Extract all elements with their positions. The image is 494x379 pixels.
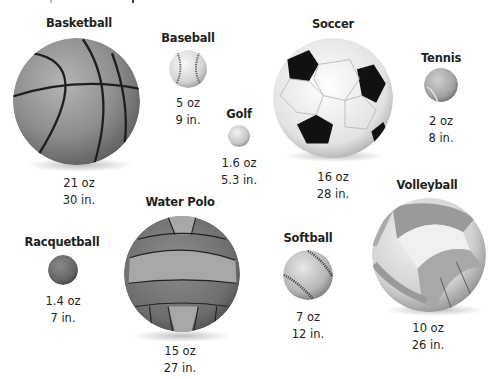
ball-weight: 5 oz xyxy=(175,95,200,112)
tennis-ball-image xyxy=(424,68,458,102)
golf-ball-image xyxy=(228,125,250,147)
ball-circumference: 12 in. xyxy=(292,326,324,343)
ball-stats: 15 oz 27 in. xyxy=(164,343,196,376)
ball-circumference: 27 in. xyxy=(164,360,196,377)
ball-circumference: 26 in. xyxy=(412,337,444,354)
ball-stats: 7 oz 12 in. xyxy=(292,309,324,342)
racquetball-image xyxy=(48,255,78,285)
ball-weight: 21 oz xyxy=(63,175,95,192)
ball-name: Soccer xyxy=(312,17,354,31)
ball-name: Basketball xyxy=(46,16,112,30)
ball-weight: 16 oz xyxy=(317,169,349,186)
ball-stats: 10 oz 26 in. xyxy=(412,320,444,353)
ball-circumference: 9 in. xyxy=(175,112,200,129)
volleyball-image xyxy=(372,198,486,312)
ball-weight: 1.4 oz xyxy=(45,293,80,310)
ball-weight: 2 oz xyxy=(428,113,453,130)
ball-circumference: 30 in. xyxy=(63,192,95,209)
ball-weight: 10 oz xyxy=(412,320,444,337)
ball-name: Volleyball xyxy=(396,178,457,192)
ball-name: Tennis xyxy=(421,51,461,65)
basketball-image xyxy=(13,38,140,165)
ball-circumference: 5.3 in. xyxy=(221,172,257,189)
water-polo-ball-image xyxy=(124,216,240,332)
ball-weight: 1.6 oz xyxy=(221,155,257,172)
ball-weight: 7 oz xyxy=(292,309,324,326)
ball-stats: 16 oz 28 in. xyxy=(317,169,349,202)
ball-name: Golf xyxy=(226,107,252,121)
soccer-ball-image xyxy=(273,38,393,158)
ball-stats: 2 oz 8 in. xyxy=(428,113,453,146)
ball-name: Water Polo xyxy=(145,195,214,209)
ball-circumference: 7 in. xyxy=(45,310,80,327)
cropped-text-fragment xyxy=(50,0,52,3)
baseball-image xyxy=(169,50,207,88)
ball-stats: 5 oz 9 in. xyxy=(175,95,200,128)
ball-name: Racquetball xyxy=(25,235,100,249)
ball-circumference: 28 in. xyxy=(317,186,349,203)
ball-name: Baseball xyxy=(161,31,214,45)
ball-circumference: 8 in. xyxy=(428,130,453,147)
ball-stats: 1.4 oz 7 in. xyxy=(45,293,80,326)
ball-weight: 15 oz xyxy=(164,343,196,360)
ball-name: Softball xyxy=(284,231,333,245)
ball-stats: 21 oz 30 in. xyxy=(63,175,95,208)
softball-image xyxy=(283,250,333,300)
ball-stats: 1.6 oz 5.3 in. xyxy=(221,155,257,188)
cropped-text-fragment xyxy=(132,0,134,3)
